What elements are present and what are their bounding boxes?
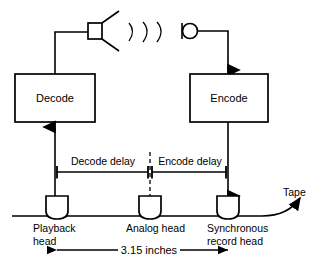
record-head-label-line1: Synchronous	[207, 222, 268, 234]
record-head-label-line2: record head	[207, 235, 263, 247]
encode-delay-label: Encode delay	[158, 155, 222, 167]
playback-head-shape	[46, 196, 68, 219]
decode-delay-label: Decode delay	[71, 155, 136, 167]
diagram-canvas: Decode Encode Decode delay Encode delay …	[0, 0, 322, 267]
decode-block-label: Decode	[36, 92, 74, 104]
tape-label: Tape	[283, 186, 306, 198]
analog-head-shape	[139, 196, 161, 219]
sound-waves-icon	[129, 22, 161, 42]
encode-block-label: Encode	[210, 92, 247, 104]
playback-head-label-line1: Playback	[33, 222, 76, 234]
microphone-icon	[182, 23, 198, 39]
microphone-to-encode-wire	[198, 31, 229, 70]
tape-transport-diagram: Decode Encode Decode delay Encode delay …	[0, 0, 322, 267]
record-head-shape	[217, 196, 239, 219]
speaker-icon	[88, 11, 119, 51]
speaker-to-decode-wire	[55, 32, 88, 74]
overall-dimension-label: 3.15 inches	[121, 244, 178, 256]
analog-head-label-line1: Analog head	[126, 222, 185, 234]
playback-head-label-line2: head	[33, 235, 57, 247]
